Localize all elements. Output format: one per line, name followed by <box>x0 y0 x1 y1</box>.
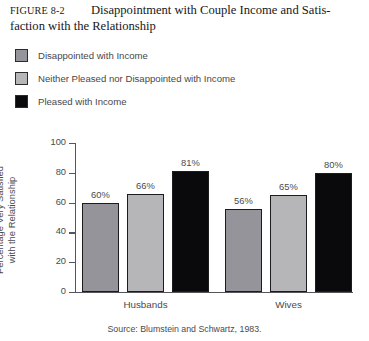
bar-value-label: 56% <box>234 195 253 206</box>
x-axis-line <box>75 292 353 293</box>
bar <box>315 173 352 292</box>
bar <box>82 203 119 292</box>
bar-value-label: 65% <box>279 181 298 192</box>
bar <box>172 171 209 292</box>
y-tick-label: 100 <box>42 137 66 147</box>
y-tick-label: 40 <box>42 226 66 236</box>
y-tick-label: 0 <box>42 286 66 296</box>
bar-value-label: 66% <box>136 180 155 191</box>
y-tick-label: 80 <box>42 167 66 177</box>
y-axis-title-line2: with the Relationship <box>6 177 17 264</box>
bar-value-label: 60% <box>91 189 110 200</box>
bar <box>127 194 164 292</box>
y-tick-label: 60 <box>42 197 66 207</box>
y-axis-title: Percentage Very Satisfied with the Relat… <box>0 140 17 300</box>
x-axis-label: Wives <box>275 299 302 310</box>
source-note: Source: Blumstein and Schwartz, 1983. <box>0 324 369 334</box>
x-axis-label: Husbands <box>123 299 167 310</box>
bars-container <box>75 143 353 292</box>
y-axis-title-line1: Percentage Very Satisfied <box>0 166 5 274</box>
bar-value-label: 81% <box>181 157 200 168</box>
bar <box>225 209 262 292</box>
bar <box>270 195 307 292</box>
bar-value-label: 80% <box>324 159 343 170</box>
y-tick-label: 20 <box>42 256 66 266</box>
figure-page: FIGURE 8-2Disappointment with Couple Inc… <box>0 0 369 341</box>
y-tick <box>69 292 75 293</box>
bar-chart: 020406080100 60%66%81%56%65%80% Husbands… <box>0 0 369 341</box>
